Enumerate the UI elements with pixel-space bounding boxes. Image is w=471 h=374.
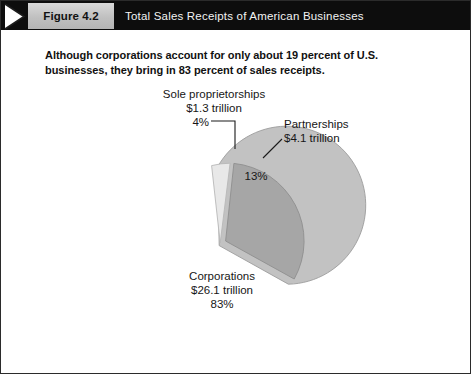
label-partnerships-name: Partnerships [284,117,424,131]
figure-badge-label: Figure 4.2 [28,3,114,29]
label-corporations-value: $26.1 trillion [144,283,300,297]
pie-chart: Sole proprietorships $1.3 trillion 4% Pa… [1,81,471,373]
label-sole-proprietorships-percent: 4% [163,115,209,129]
label-partnerships-percent: 13% [226,169,286,183]
label-corporations-name: Corporations [144,269,300,283]
label-corporations: Corporations $26.1 trillion 83% [144,269,300,311]
label-sole-proprietorships-value: $1.3 trillion [139,101,289,115]
label-partnerships-value: $4.1 trillion [284,131,424,145]
figure-title: Total Sales Receipts of American Busines… [125,3,364,29]
figure-container: Figure 4.2 Total Sales Receipts of Ameri… [0,0,471,374]
leader-line-sole-proprietorships [211,121,235,149]
label-corporations-percent: 83% [144,297,300,311]
label-sole-proprietorships: Sole proprietorships $1.3 trillion [139,87,289,115]
label-sole-proprietorships-name: Sole proprietorships [139,87,289,101]
figure-subtitle: Although corporations account for only a… [45,48,435,78]
label-partnerships: Partnerships $4.1 trillion [284,117,424,145]
